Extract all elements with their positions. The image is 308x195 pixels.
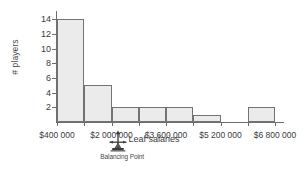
x-tick-mark	[84, 122, 85, 126]
y-tick-label: 4	[46, 88, 51, 98]
x-tick-mark	[57, 122, 58, 126]
y-tick-label: 10	[41, 44, 51, 54]
histogram-figure: # players 2468101214 $400 000$2 000 000$…	[0, 0, 308, 195]
x-tick-mark	[166, 122, 167, 126]
y-axis-title: # players	[10, 22, 20, 92]
x-tick-mark	[139, 122, 140, 126]
x-tick-mark	[193, 122, 194, 126]
x-axis-title: Leaf salaries	[0, 134, 308, 144]
histogram-bar	[193, 115, 220, 122]
x-tick-mark	[112, 122, 113, 126]
balancing-point-annotation: Balancing Point	[100, 130, 136, 160]
histogram-bar	[57, 19, 84, 122]
y-tick-label: 6	[46, 73, 51, 83]
histogram-bar	[112, 107, 139, 122]
histogram-bar	[166, 107, 193, 122]
histogram-bar	[84, 85, 111, 122]
x-tick-mark	[221, 122, 222, 126]
y-tick-label: 8	[46, 58, 51, 68]
x-tick-mark	[248, 122, 249, 126]
y-tick-label: 12	[41, 29, 51, 39]
histogram-bar	[139, 107, 166, 122]
x-tick-mark	[275, 122, 276, 126]
y-tick-label: 14	[41, 14, 51, 24]
x-axis-line	[56, 122, 284, 123]
plot-area: 2468101214 $400 000$2 000 000$3 600 000$…	[57, 12, 275, 122]
balancing-point-label: Balancing Point	[100, 153, 136, 160]
y-tick-label: 2	[46, 102, 51, 112]
histogram-bar	[248, 107, 275, 122]
fulcrum-arrow-icon	[107, 130, 129, 152]
